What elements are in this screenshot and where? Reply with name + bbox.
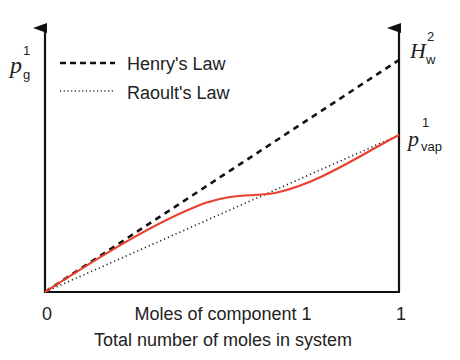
svg-text:1: 1 xyxy=(23,43,30,58)
svg-text:p: p xyxy=(406,126,419,151)
legend-raoults-law: Raoult's Law xyxy=(127,83,230,103)
x-axis-label-line2: Total number of moles in system xyxy=(94,330,352,350)
legend-henrys-law: Henry's Law xyxy=(127,54,226,74)
svg-text:2: 2 xyxy=(427,29,434,44)
svg-text:H: H xyxy=(409,38,427,63)
x-tick-1: 1 xyxy=(396,304,406,324)
x-axis-label-line1: Moles of component 1 xyxy=(134,304,311,324)
raoults-law-line xyxy=(45,135,399,292)
left-axis-label: p 1 g xyxy=(8,43,30,82)
henry-constant-label: H 2 w xyxy=(409,29,436,67)
svg-text:vap: vap xyxy=(421,139,442,154)
svg-text:p: p xyxy=(8,52,22,78)
vapour-pressure-label: p 1 vap xyxy=(406,115,442,154)
x-tick-0: 0 xyxy=(42,304,52,324)
svg-text:1: 1 xyxy=(422,115,429,130)
legend: Henry's Law Raoult's Law xyxy=(60,54,230,103)
svg-text:w: w xyxy=(425,52,436,67)
chart: p 1 g Henry's Law Raoult's Law H 2 w p 1… xyxy=(0,0,460,360)
svg-text:g: g xyxy=(23,67,30,82)
